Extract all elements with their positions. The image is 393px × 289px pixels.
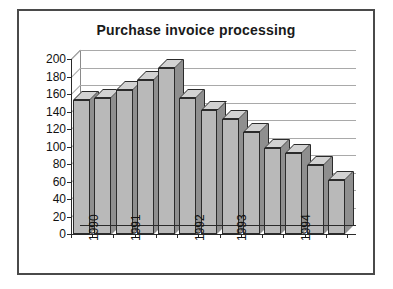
x-axis-back-line	[80, 225, 356, 226]
x-tick-label: 1992	[193, 214, 207, 241]
bar	[116, 90, 133, 234]
x-tick-mark	[71, 234, 72, 238]
y-tick-label: 40	[53, 192, 66, 206]
y-tick-label: 160	[46, 87, 66, 101]
y-tick-label: 120	[46, 122, 66, 136]
y-tick-label: 100	[46, 140, 66, 154]
y-tick-label: 60	[53, 175, 66, 189]
plot-area: 020406080100120140160180200 199019911992…	[71, 59, 356, 234]
x-tick-label: 1993	[235, 214, 249, 241]
gridline	[80, 50, 356, 51]
y-tick-label: 20	[53, 210, 66, 224]
x-tick-mark	[326, 234, 327, 238]
chart-title: Purchase invoice processing	[19, 22, 373, 38]
x-tick-mark	[177, 234, 178, 238]
y-tick-label: 180	[46, 70, 66, 84]
y-axis-line	[71, 59, 72, 235]
bar-face	[137, 80, 154, 234]
bar-face	[158, 68, 175, 234]
x-tick-mark	[347, 234, 348, 238]
y-tick-label: 80	[53, 157, 66, 171]
bar-face	[264, 148, 281, 234]
x-tick-mark	[113, 234, 114, 238]
x-tick-mark	[283, 234, 284, 238]
y-tick-label: 140	[46, 105, 66, 119]
x-tick-mark	[156, 234, 157, 238]
x-tick-mark	[262, 234, 263, 238]
bar	[158, 68, 175, 234]
y-tick-label: 0	[59, 227, 66, 241]
x-tick-label: 1990	[87, 214, 101, 241]
x-tick-label: 1991	[129, 214, 143, 241]
bar	[137, 80, 154, 234]
chart-card: Purchase invoice processing 020406080100…	[17, 9, 375, 275]
x-tick-mark	[220, 234, 221, 238]
y-tick-label: 200	[46, 52, 66, 66]
gridline	[80, 68, 356, 69]
x-tick-label: 1994	[299, 214, 313, 241]
bar	[264, 148, 281, 234]
bar-face	[116, 90, 133, 234]
